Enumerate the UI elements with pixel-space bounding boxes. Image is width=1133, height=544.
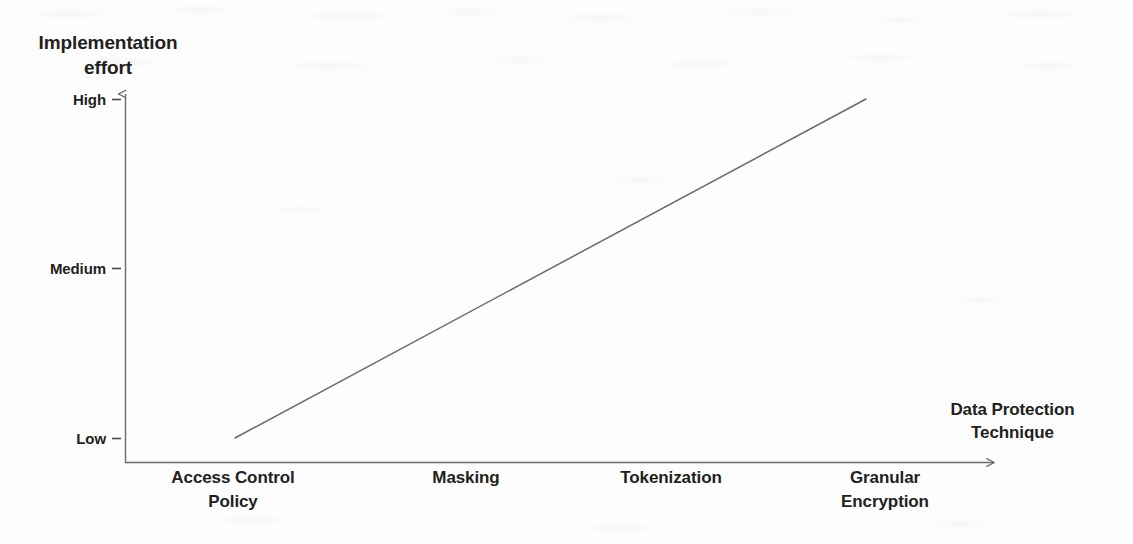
y-axis-title-line1: Implementation: [8, 30, 208, 55]
x-tick-label-granular-encryption: Granular Encryption: [795, 466, 975, 514]
x-tick-label-tokenization: Tokenization: [586, 466, 756, 490]
y-tick-label-low: Low: [20, 430, 106, 447]
x-tick-label-line1: Granular: [795, 466, 975, 490]
x-tick-label-line1: Masking: [386, 466, 546, 490]
y-axis-title-line2: effort: [8, 55, 208, 80]
x-tick-label-access-control-policy: Access Control Policy: [133, 466, 333, 514]
trend-line-series-1: [235, 99, 866, 438]
x-tick-label-masking: Masking: [386, 466, 546, 490]
y-axis-title: Implementation effort: [8, 30, 208, 80]
y-tick-label-medium: Medium: [20, 260, 106, 277]
x-axis-title-line1: Data Protection: [905, 398, 1120, 421]
chart-page: Implementation effort Data Protection Te…: [0, 0, 1133, 544]
x-tick-label-line1: Access Control: [133, 466, 333, 490]
x-axis-title: Data Protection Technique: [905, 398, 1120, 444]
x-tick-label-line2: Encryption: [795, 490, 975, 514]
x-tick-label-line1: Tokenization: [586, 466, 756, 490]
x-tick-label-line2: Policy: [133, 490, 333, 514]
x-axis-title-line2: Technique: [905, 421, 1120, 444]
chart-plot-area: [0, 0, 1133, 544]
y-tick-label-high: High: [20, 91, 106, 108]
